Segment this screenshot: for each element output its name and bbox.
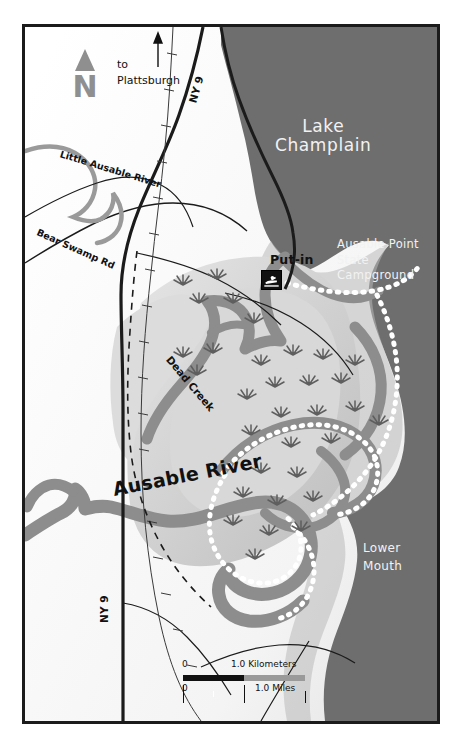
map-base-artwork (25, 27, 437, 721)
map-figure: N to Plattsburgh NY 9 NY 9 Little Ausabl… (0, 0, 466, 747)
map-frame-border: N to Plattsburgh NY 9 NY 9 Little Ausabl… (22, 24, 440, 724)
